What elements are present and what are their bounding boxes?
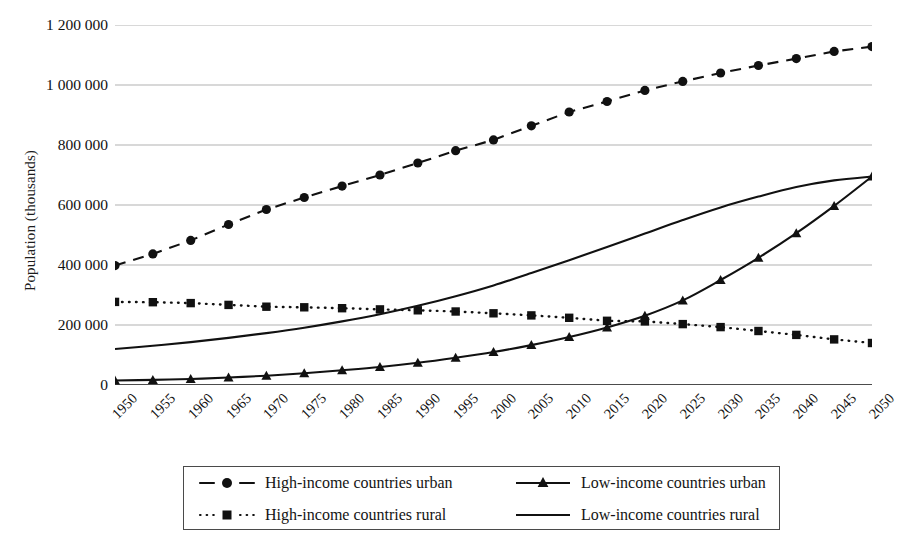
y-axis-tick-label: 1 000 000 (14, 77, 108, 93)
data-point-marker (527, 121, 536, 130)
y-axis-tick-label: 400 000 (14, 257, 108, 273)
data-point-marker (565, 314, 573, 322)
data-point-marker (187, 299, 195, 307)
data-point-marker (375, 170, 384, 179)
data-point-marker (602, 97, 611, 106)
legend-sample-solid-plain (514, 506, 572, 524)
chart-legend: High-income countries urbanLow-income co… (183, 466, 780, 530)
data-point-marker (115, 261, 120, 270)
x-axis-tick-labels: 1950195519601965197019751980198519901995… (0, 390, 894, 450)
legend-label: Low-income countries urban (581, 474, 766, 492)
data-point-marker (830, 335, 838, 343)
data-point-marker (224, 301, 232, 309)
data-point-marker (792, 54, 801, 63)
data-point-marker (867, 42, 872, 51)
data-point-marker (754, 61, 763, 70)
data-point-marker (262, 303, 270, 311)
data-point-marker (451, 307, 459, 315)
data-point-marker (300, 193, 309, 202)
legend-item[interactable]: Low-income countries urban (500, 474, 781, 492)
legend-sample-dashed-circle (198, 474, 256, 492)
chart-svg (115, 25, 872, 385)
data-point-marker (565, 107, 574, 116)
legend-item[interactable]: Low-income countries rural (500, 506, 781, 524)
series-4 (115, 177, 872, 350)
data-point-marker (338, 182, 347, 191)
series-2 (115, 298, 872, 347)
legend-sample-solid-triangle (514, 474, 572, 492)
data-point-marker (679, 320, 687, 328)
data-point-marker (678, 295, 688, 304)
data-point-marker (754, 327, 762, 335)
data-point-marker (716, 275, 726, 284)
legend-label: Low-income countries rural (581, 506, 760, 524)
data-point-marker (753, 253, 763, 262)
data-point-marker (262, 205, 271, 214)
legend-sample-dotted-square (198, 506, 256, 524)
series-1 (115, 42, 872, 270)
data-point-marker (148, 249, 157, 258)
legend-label: High-income countries rural (265, 506, 446, 524)
legend-item[interactable]: High-income countries rural (184, 506, 500, 524)
data-point-marker (868, 339, 872, 347)
data-point-marker (115, 298, 119, 306)
y-axis-tick-labels: 0200 000400 000600 000800 0001 000 0001 … (14, 0, 108, 400)
data-point-marker (413, 158, 422, 167)
data-point-marker (716, 68, 725, 77)
series-line (115, 177, 872, 350)
data-point-marker (527, 311, 535, 319)
data-point-marker (640, 86, 649, 95)
data-point-marker (489, 309, 497, 317)
data-point-marker (149, 298, 157, 306)
data-point-marker (224, 220, 233, 229)
data-point-marker (376, 305, 384, 313)
data-point-marker (830, 47, 839, 56)
data-point-marker (300, 303, 308, 311)
series-line (115, 47, 872, 266)
series-3 (115, 172, 872, 385)
legend-item[interactable]: High-income countries urban (184, 474, 500, 492)
data-point-marker (451, 146, 460, 155)
data-point-marker (489, 135, 498, 144)
data-point-marker (678, 77, 687, 86)
y-axis-tick-label: 1 200 000 (14, 17, 108, 33)
data-point-marker (338, 304, 346, 312)
data-point-marker (716, 323, 724, 331)
legend-label: High-income countries urban (265, 474, 453, 492)
y-axis-tick-label: 200 000 (14, 317, 108, 333)
y-axis-tick-label: 800 000 (14, 137, 108, 153)
y-axis-tick-label: 600 000 (14, 197, 108, 213)
data-point-marker (186, 236, 195, 245)
plot-area (115, 25, 872, 385)
data-point-marker (792, 331, 800, 339)
